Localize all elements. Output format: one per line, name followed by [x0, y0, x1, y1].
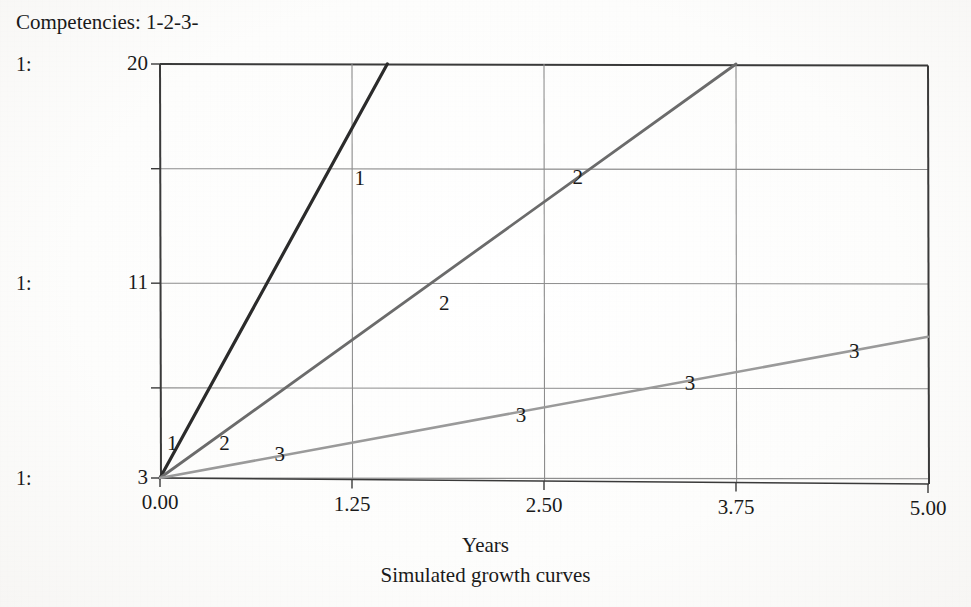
y-axis-tick-label-0: 20 [104, 53, 148, 74]
y-axis-tick-label-2: 3 [104, 467, 148, 488]
series-2-inline-label-0: 2 [219, 432, 230, 453]
plot-tick-marks [151, 64, 928, 493]
series-line-1 [160, 64, 387, 478]
x-axis-title: Years [0, 535, 971, 556]
series-3-inline-label-2: 3 [685, 373, 696, 394]
x-axis-tick-label-4: 5.00 [910, 498, 947, 519]
series-1-inline-label-0: 1 [167, 432, 178, 453]
series-1-inline-label-1: 1 [354, 168, 365, 189]
x-axis-tick-label-3: 3.75 [718, 497, 755, 518]
x-axis-tick-label-2: 2.50 [526, 495, 563, 516]
x-axis-tick-label-0: 0.00 [142, 492, 179, 513]
series-2-inline-label-2: 2 [573, 167, 584, 188]
y-axis-scale-marker-1: 1: [16, 273, 32, 293]
x-axis-tick-label-1: 1.25 [334, 494, 371, 515]
plot-gridlines [160, 64, 928, 483]
y-axis-scale-marker-0: 1: [16, 54, 32, 74]
series-3-inline-label-3: 3 [849, 341, 860, 362]
y-axis-tick-label-1: 11 [104, 272, 148, 293]
series-2-inline-label-1: 2 [439, 292, 450, 313]
growth-curves-plot [0, 0, 971, 607]
series-line-2 [160, 64, 736, 478]
figure-caption: Simulated growth curves [0, 565, 971, 586]
y-axis-scale-marker-2: 1: [16, 468, 32, 488]
series-3-inline-label-1: 3 [516, 404, 527, 425]
series-3-inline-label-0: 3 [275, 443, 286, 464]
